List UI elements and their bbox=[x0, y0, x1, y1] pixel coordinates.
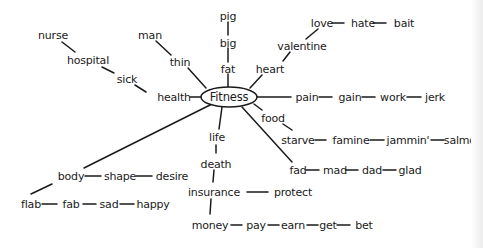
connector-line bbox=[283, 124, 292, 130]
word-node-pay: pay bbox=[246, 219, 266, 232]
word-node-insurance: insurance bbox=[188, 186, 240, 199]
word-node-life: life bbox=[209, 131, 225, 144]
word-node-mad: mad bbox=[323, 164, 347, 177]
word-node-hospital: hospital bbox=[67, 54, 109, 67]
word-node-money: money bbox=[192, 219, 229, 232]
word-node-happy: happy bbox=[136, 198, 169, 211]
word-node-desire: desire bbox=[156, 170, 188, 183]
connector-line bbox=[135, 85, 146, 92]
word-node-death: death bbox=[201, 158, 232, 171]
connector-line bbox=[213, 170, 214, 182]
word-node-hate: hate bbox=[351, 17, 375, 30]
word-node-pain: pain bbox=[296, 91, 319, 104]
connector-lines bbox=[0, 0, 483, 248]
connector-line bbox=[283, 52, 290, 61]
word-node-food: food bbox=[261, 112, 285, 125]
connector-line bbox=[156, 41, 171, 55]
word-node-valentine: valentine bbox=[277, 40, 326, 53]
word-node-fat: fat bbox=[221, 63, 235, 76]
connector-line bbox=[188, 68, 206, 88]
connector-line bbox=[254, 104, 262, 110]
connector-line bbox=[210, 199, 211, 214]
connector-line bbox=[219, 107, 222, 129]
word-node-sad: sad bbox=[100, 198, 119, 211]
word-node-heart: heart bbox=[256, 63, 284, 76]
word-node-fab: fab bbox=[63, 198, 80, 211]
connector-line bbox=[102, 67, 114, 73]
word-node-starve: starve bbox=[281, 134, 314, 147]
mind-map-canvas: Fitness pigbigfatmanthinnursehospitalsic… bbox=[0, 0, 483, 248]
connector-line bbox=[306, 29, 318, 39]
word-node-gain: gain bbox=[339, 91, 362, 104]
connector-line bbox=[31, 184, 52, 194]
word-node-bait: bait bbox=[394, 17, 414, 30]
word-node-health: health bbox=[157, 91, 191, 104]
word-node-shape: shape bbox=[104, 170, 136, 183]
word-node-jammin: jammin' bbox=[387, 134, 430, 147]
word-node-earn: earn bbox=[281, 219, 305, 232]
word-node-body: body bbox=[58, 170, 84, 183]
word-node-big: big bbox=[220, 37, 236, 50]
word-node-fad: fad bbox=[290, 164, 307, 177]
word-node-thin: thin bbox=[170, 56, 191, 69]
center-node-label: Fitness bbox=[210, 91, 248, 104]
word-node-protect: protect bbox=[274, 186, 312, 199]
word-node-flab: flab bbox=[21, 198, 41, 211]
page-edge-shadow bbox=[471, 0, 483, 248]
word-node-dad: dad bbox=[362, 164, 382, 177]
word-node-man: man bbox=[138, 29, 162, 42]
word-node-pig: pig bbox=[220, 10, 236, 23]
word-node-work: work bbox=[380, 91, 406, 104]
word-node-nurse: nurse bbox=[38, 29, 68, 42]
word-node-bet: bet bbox=[355, 219, 372, 232]
word-node-get: get bbox=[319, 219, 336, 232]
connector-line bbox=[250, 75, 262, 88]
connector-line bbox=[84, 104, 212, 168]
connector-line bbox=[62, 42, 75, 52]
word-node-jerk: jerk bbox=[425, 91, 445, 104]
word-node-love: love bbox=[311, 17, 333, 30]
word-node-glad: glad bbox=[399, 164, 422, 177]
word-node-famine: famine bbox=[333, 134, 370, 147]
word-node-sick: sick bbox=[117, 73, 137, 86]
